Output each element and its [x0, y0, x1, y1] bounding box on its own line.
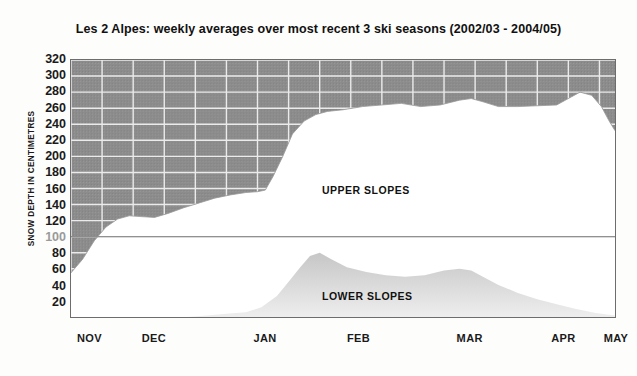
x-tick-feb: FEB: [347, 332, 370, 344]
y-tick-120: 120: [45, 215, 66, 228]
y-tick-160: 160: [45, 182, 66, 195]
x-axis-tick-labels: NOVDECJANFEBMARAPRMAY: [0, 332, 637, 352]
x-tick-nov: NOV: [77, 332, 102, 344]
series-label-upper-slopes: UPPER SLOPES: [322, 184, 410, 196]
x-tick-may: MAY: [604, 332, 629, 344]
y-tick-180: 180: [45, 166, 66, 179]
x-tick-mar: MAR: [457, 332, 483, 344]
y-tick-200: 200: [45, 150, 66, 163]
y-tick-300: 300: [45, 69, 66, 82]
y-tick-280: 280: [45, 85, 66, 98]
y-tick-80: 80: [52, 247, 66, 260]
page-title: Les 2 Alpes: weekly averages over most r…: [0, 22, 637, 36]
x-tick-jan: JAN: [253, 332, 276, 344]
y-tick-260: 260: [45, 101, 66, 114]
y-tick-220: 220: [45, 134, 66, 147]
chart-canvas: Les 2 Alpes: weekly averages over most r…: [0, 0, 637, 376]
y-tick-320: 320: [45, 53, 66, 66]
y-tick-100: 100: [45, 231, 66, 244]
y-tick-40: 40: [52, 279, 66, 292]
x-tick-dec: DEC: [142, 332, 166, 344]
y-axis-tick-labels: 3203002802602402202001801601401201008060…: [26, 50, 66, 330]
y-tick-140: 140: [45, 198, 66, 211]
y-tick-240: 240: [45, 118, 66, 131]
x-tick-apr: APR: [551, 332, 575, 344]
y-tick-20: 20: [52, 296, 66, 309]
series-label-lower-slopes: LOWER SLOPES: [322, 290, 413, 302]
y-tick-60: 60: [52, 263, 66, 276]
